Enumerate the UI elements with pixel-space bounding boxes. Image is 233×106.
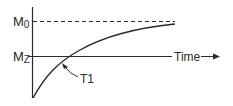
m0-label: M0 xyxy=(13,14,30,30)
mz-subscript: Z xyxy=(24,54,30,65)
m0-subscript: 0 xyxy=(24,19,30,30)
t1-label: T1 xyxy=(80,72,94,86)
time-label: Time xyxy=(174,50,201,64)
time-arrowhead-icon xyxy=(213,54,220,60)
mz-label: MZ xyxy=(13,49,30,65)
t1-arrowhead-icon xyxy=(62,63,68,69)
recovery-curve xyxy=(33,24,175,98)
t1-recovery-diagram: M0 MZ Time T1 xyxy=(0,0,233,106)
